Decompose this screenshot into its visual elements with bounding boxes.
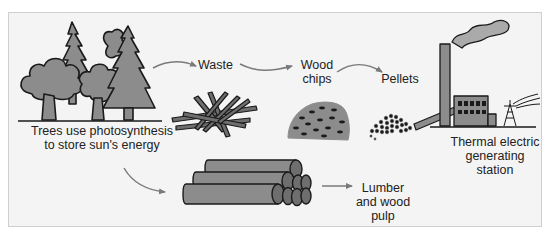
label-waste: Waste — [198, 58, 248, 72]
log-pile-icon — [183, 160, 311, 206]
label-trees: Trees use photosynthesis to store sun's … — [22, 124, 182, 152]
forest-icon — [18, 22, 162, 121]
diagram-artwork — [0, 0, 552, 240]
label-wood-chips: Wood chips — [292, 58, 342, 86]
label-station: Thermal electric generating station — [440, 135, 550, 177]
arrow-trees-to-lumber — [124, 168, 165, 192]
pellets-icon — [370, 114, 413, 141]
label-pellets: Pellets — [370, 72, 430, 86]
branches-icon — [172, 92, 257, 137]
wood-chips-icon — [288, 102, 349, 140]
power-plant-icon — [440, 20, 509, 126]
arrow-trees-to-waste — [153, 62, 196, 68]
arrow-chips-to-pellets — [337, 65, 382, 73]
label-lumber: Lumber and wood pulp — [348, 181, 418, 223]
